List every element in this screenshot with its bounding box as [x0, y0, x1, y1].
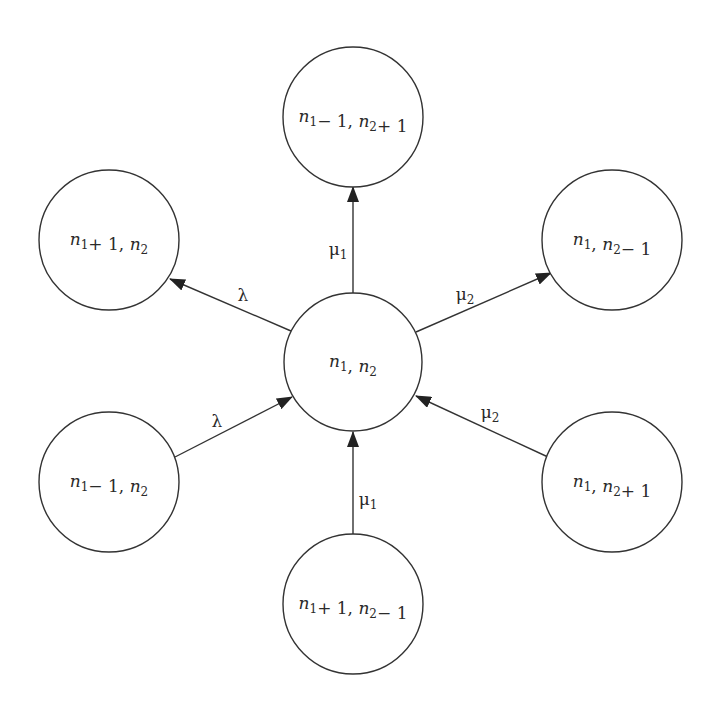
state-transition-diagram: n1, n2n1− 1, n2+ 1n1+ 1, n2n1, n2− 1n1− …	[0, 0, 718, 707]
rate-subscript: 2	[467, 293, 475, 307]
state-subscript: 2	[613, 485, 621, 499]
rate-label-bottom-right-to-center: μ2	[481, 402, 500, 425]
rate-subscript: 2	[492, 411, 500, 425]
state-variable: n	[602, 234, 613, 254]
state-node-top-right: n1, n2− 1	[542, 170, 682, 310]
state-subscript: 1	[81, 480, 89, 494]
rate-label-center-to-top: μ1	[329, 239, 348, 262]
state-subscript: 2	[141, 243, 149, 257]
rate-label-bottom-to-center: μ1	[359, 489, 378, 512]
state-operator: − 1,	[317, 111, 358, 131]
state-subscript: 1	[81, 238, 89, 252]
transition-arrow-center-to-top-left	[170, 279, 291, 331]
state-subscript: 2	[369, 120, 377, 134]
state-variable: n	[130, 234, 141, 254]
state-operator: ,	[348, 356, 359, 376]
transition-arrow-center-to-top-right	[416, 273, 551, 332]
state-operator: − 1,	[88, 476, 129, 496]
state-operator: ,	[591, 476, 602, 496]
state-operator: − 1	[621, 239, 651, 259]
state-operator: + 1,	[88, 234, 129, 254]
state-node-top-left: n1+ 1, n2	[39, 170, 179, 310]
transition-arrow-bottom-left-to-center	[175, 397, 292, 457]
nodes-layer: n1, n2n1− 1, n2+ 1n1+ 1, n2n1, n2− 1n1− …	[39, 47, 682, 674]
state-variable: n	[70, 229, 81, 249]
rate-subscript: 1	[340, 248, 348, 262]
state-subscript: 2	[613, 243, 621, 257]
rate-symbol: μ	[456, 284, 467, 304]
state-subscript: 2	[369, 365, 377, 379]
state-subscript: 1	[340, 360, 348, 374]
state-node-bottom-left: n1− 1, n2	[39, 412, 179, 552]
state-variable: n	[573, 229, 584, 249]
state-variable: n	[299, 593, 310, 613]
state-variable: n	[70, 471, 81, 491]
state-variable: n	[329, 351, 340, 371]
state-variable: n	[573, 471, 584, 491]
state-subscript: 2	[141, 485, 149, 499]
state-subscript: 1	[309, 602, 317, 616]
state-node-center: n1, n2	[284, 293, 422, 431]
rate-symbol: λ	[238, 285, 249, 305]
state-variable: n	[130, 476, 141, 496]
state-subscript: 1	[309, 115, 317, 129]
state-operator: + 1	[621, 481, 651, 501]
rate-subscript: 1	[370, 498, 378, 512]
rate-label-center-to-top-left: λ	[238, 285, 249, 305]
state-variable: n	[358, 598, 369, 618]
state-node-bottom-right: n1, n2+ 1	[542, 412, 682, 552]
state-variable: n	[358, 356, 369, 376]
rate-symbol: μ	[329, 239, 340, 259]
state-variable: n	[602, 476, 613, 496]
rate-label-center-to-top-right: μ2	[456, 284, 475, 307]
state-operator: + 1	[377, 116, 407, 136]
rate-symbol: μ	[481, 402, 492, 422]
state-variable: n	[299, 106, 310, 126]
state-node-top: n1− 1, n2+ 1	[283, 47, 423, 187]
rate-label-bottom-left-to-center: λ	[212, 411, 223, 431]
rate-symbol: λ	[212, 411, 223, 431]
state-subscript: 1	[584, 238, 592, 252]
rate-symbol: μ	[359, 489, 370, 509]
state-operator: ,	[591, 234, 602, 254]
state-subscript: 2	[369, 607, 377, 621]
state-operator: − 1	[377, 603, 407, 623]
state-node-bottom: n1+ 1, n2− 1	[283, 534, 423, 674]
state-subscript: 1	[584, 480, 592, 494]
state-operator: + 1,	[317, 598, 358, 618]
state-variable: n	[358, 111, 369, 131]
